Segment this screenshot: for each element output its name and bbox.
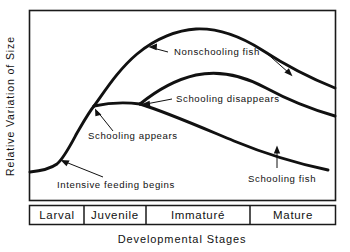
annotation-nonschooling-fish: Nonschooling fish xyxy=(174,46,260,57)
annotation-schooling-appears: Schooling appears xyxy=(88,130,178,141)
stage-label-immature: Immaturé xyxy=(171,209,225,221)
chart-svg: Intensive feeding begins Schooling appea… xyxy=(0,0,350,252)
figure-container: Intensive feeding begins Schooling appea… xyxy=(0,0,350,252)
plot-frame xyxy=(30,11,336,201)
annotation-intensive-feeding: Intensive feeding begins xyxy=(57,179,175,190)
annotation-schooling-disappears: Schooling disappears xyxy=(176,93,280,104)
arrowhead-schooling-fish xyxy=(274,146,280,154)
stage-label-mature: Mature xyxy=(273,209,313,221)
leader-intensive-feeding xyxy=(63,161,103,177)
stage-label-larval: Larval xyxy=(39,209,75,221)
stage-label-juvenile: Juvenile xyxy=(91,209,139,221)
leader-nonschooling-lower xyxy=(263,50,289,73)
x-axis-label: Developmental Stages xyxy=(118,233,247,245)
curve-schooling-plateau xyxy=(94,103,140,106)
annotation-schooling-fish: Schooling fish xyxy=(248,173,316,184)
y-axis-label: Relative Variation of Size xyxy=(4,36,16,176)
curve-common-trunk xyxy=(30,106,94,172)
